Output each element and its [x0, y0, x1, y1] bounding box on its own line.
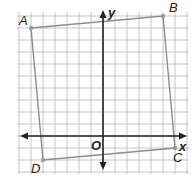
coordinate-plane: y x O ABCD	[0, 0, 195, 185]
vertex-label-d: D	[31, 161, 40, 176]
origin-label: O	[91, 138, 101, 153]
axes	[20, 10, 187, 170]
vertex-label-b: B	[169, 0, 178, 15]
vertex-point-d	[41, 158, 45, 162]
y-axis-down-arrow-icon	[100, 162, 107, 170]
vertex-label-c: C	[173, 150, 183, 165]
y-axis-label: y	[107, 5, 116, 20]
vertex-point-b	[161, 14, 165, 18]
x-axis-left-arrow-icon	[20, 133, 28, 140]
vertex-point-a	[29, 26, 33, 30]
y-axis-up-arrow-icon	[100, 10, 107, 18]
vertex-label-a: A	[18, 13, 28, 28]
